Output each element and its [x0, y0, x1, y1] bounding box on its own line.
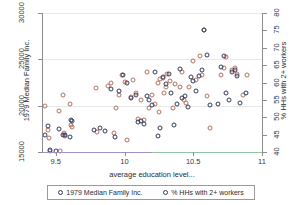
data-point-marker: [45, 123, 50, 128]
data-point-marker: [112, 135, 117, 140]
y-axis-right-tick: [263, 83, 267, 84]
data-point-marker: [42, 132, 47, 137]
legend-item-median-family-inc[interactable]: 1979 Median Family Inc.: [58, 189, 142, 196]
data-point-marker: [196, 73, 201, 78]
x-axis-tick-label: 11: [247, 157, 277, 166]
data-point-marker: [162, 90, 167, 95]
scatter-chart: 150002000025000300004045505560657075809.…: [0, 0, 299, 205]
x-axis-tick-label: 10: [110, 157, 140, 166]
y-axis-right-tick: [263, 117, 267, 118]
data-point-marker: [183, 94, 188, 99]
data-point-marker: [67, 101, 72, 106]
gridline: [42, 59, 262, 60]
data-point-marker: [139, 98, 144, 103]
data-point-marker: [174, 102, 179, 107]
data-point-marker: [216, 102, 221, 107]
data-point-marker: [191, 59, 196, 64]
data-point-marker: [121, 72, 126, 77]
data-point-marker: [218, 73, 223, 78]
chart-legend: 1979 Median Family Inc. % HHs with 2+ wo…: [47, 185, 255, 200]
plot-area: [42, 13, 262, 152]
data-point-marker: [235, 73, 240, 78]
y-axis-left-line: [42, 13, 43, 152]
data-point-marker: [170, 106, 175, 111]
data-point-marker: [198, 53, 203, 58]
y-axis-right-tick: [263, 48, 267, 49]
y-axis-right-tick: [263, 152, 267, 153]
data-point-marker: [244, 73, 249, 78]
data-point-marker: [108, 81, 113, 86]
data-point-marker: [185, 104, 190, 109]
data-point-marker: [97, 125, 102, 130]
data-point-marker: [150, 103, 155, 108]
data-point-marker: [227, 97, 232, 102]
y-axis-left-tick: [38, 13, 42, 14]
y-axis-right-tick: [263, 65, 267, 66]
y-axis-left-tick: [38, 59, 42, 60]
data-point-marker: [125, 137, 130, 142]
data-point-marker: [158, 125, 163, 130]
y-axis-right-tick: [263, 13, 267, 14]
gridline: [42, 13, 262, 14]
data-point-marker: [163, 82, 168, 87]
data-point-marker: [130, 77, 135, 82]
data-point-marker: [205, 94, 210, 99]
x-axis-tick-label: 10.5: [178, 157, 208, 166]
x-axis-tick: [193, 152, 194, 156]
y-axis-left-title: 1979 Median Family Inc.: [22, 11, 31, 151]
data-point-marker: [92, 127, 97, 132]
x-axis-line-right-segment: [152, 152, 263, 153]
y-axis-right-tick: [263, 135, 267, 136]
legend-label: % HHs with 2+ workers: [171, 189, 244, 196]
data-point-marker: [93, 86, 98, 91]
data-point-marker: [70, 124, 75, 129]
data-point-marker: [42, 104, 47, 109]
data-point-marker: [46, 136, 51, 141]
x-axis-tick-label: 9.5: [41, 157, 71, 166]
circle-marker-icon: [58, 190, 63, 195]
data-point-marker: [205, 52, 210, 57]
y-axis-right-tick: [263, 30, 267, 31]
data-point-marker: [161, 75, 166, 80]
x-axis-tick: [125, 152, 126, 156]
data-point-marker: [70, 118, 75, 123]
data-point-marker: [187, 85, 192, 90]
y-axis-right-title: % HHs with 2+ workers: [279, 11, 288, 151]
data-point-marker: [172, 122, 177, 127]
data-point-marker: [67, 135, 72, 140]
data-point-marker: [207, 103, 212, 108]
data-point-marker: [56, 109, 61, 114]
data-point-marker: [218, 64, 223, 69]
data-point-marker: [166, 71, 171, 76]
data-point-marker: [221, 54, 226, 59]
data-point-marker: [103, 129, 108, 134]
legend-item-hhs-2plus-workers[interactable]: % HHs with 2+ workers: [163, 189, 244, 196]
data-point-marker: [199, 68, 204, 73]
legend-label: 1979 Median Family Inc.: [66, 189, 142, 196]
data-point-marker: [60, 92, 65, 97]
data-point-marker: [56, 127, 61, 132]
data-point-marker: [202, 28, 207, 33]
x-axis-tick: [56, 152, 57, 156]
y-axis-right-tick: [263, 100, 267, 101]
data-point-marker: [108, 86, 113, 91]
data-point-marker: [156, 110, 161, 115]
data-point-marker: [150, 92, 155, 97]
data-point-marker: [144, 70, 149, 75]
data-point-marker: [194, 89, 199, 94]
data-point-marker: [117, 89, 122, 94]
data-point-marker: [167, 78, 172, 83]
data-point-marker: [114, 106, 119, 111]
data-point-marker: [169, 90, 174, 95]
y-axis-left-tick: [38, 152, 42, 153]
x-axis-line-left-segment: [42, 152, 152, 153]
x-axis-tick: [262, 152, 263, 156]
data-point-marker: [155, 134, 160, 139]
data-point-marker: [133, 92, 138, 97]
x-axis-title: average education level...: [42, 170, 262, 179]
data-point-marker: [238, 101, 243, 106]
data-point-marker: [243, 90, 248, 95]
data-point-marker: [125, 81, 130, 86]
data-point-marker: [177, 66, 182, 71]
data-point-marker: [177, 85, 182, 90]
